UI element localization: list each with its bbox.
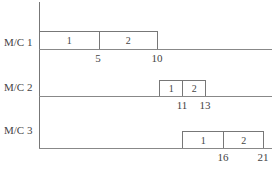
job-segment: 2 [223, 132, 263, 148]
job-segment: 2 [182, 81, 205, 96]
job-bar: 12 [182, 131, 264, 148]
machine-label: M/C 1 [4, 36, 32, 48]
machine-label: M/C 3 [4, 124, 32, 136]
job-segment: 1 [160, 81, 182, 96]
job-segment: 1 [183, 132, 223, 148]
time-tick-label: 5 [95, 52, 101, 64]
time-tick-label: 10 [152, 52, 163, 64]
machine-timeline [39, 49, 272, 50]
vertical-axis [39, 2, 40, 148]
machine-timeline [39, 96, 272, 97]
job-segment: 2 [99, 32, 158, 49]
job-segment: 1 [40, 32, 99, 49]
machine-label: M/C 2 [4, 81, 32, 93]
time-tick-label: 16 [218, 151, 229, 163]
time-tick-label: 11 [177, 99, 188, 111]
time-tick-label: 13 [200, 99, 211, 111]
gantt-chart: M/C 112510M/C 2121113M/C 3121621 [0, 0, 274, 169]
job-bar: 12 [159, 80, 206, 96]
machine-timeline [39, 148, 272, 149]
time-tick-label: 21 [258, 151, 269, 163]
job-bar: 12 [39, 31, 158, 49]
